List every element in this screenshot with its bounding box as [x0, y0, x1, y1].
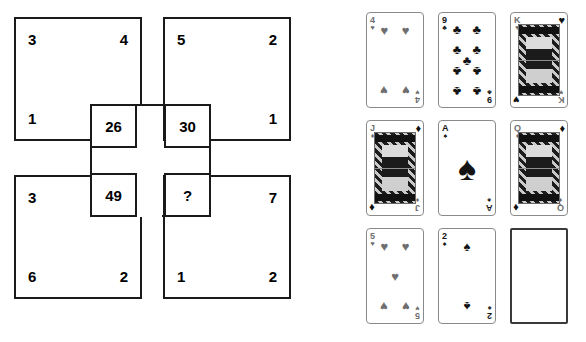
- square-tr-value-top-right: 2: [269, 32, 277, 47]
- card-pip-area: ♣♣♣♣♣♣♣♣♣: [448, 19, 486, 101]
- card-k-of-hearts[interactable]: K♥K♥♥♥: [510, 12, 568, 108]
- spades-suit-icon: ♠: [443, 240, 447, 247]
- spades-suit-icon: ♠: [464, 299, 471, 312]
- card-rank-label: K: [558, 96, 565, 104]
- center-mask-horizontal: [92, 148, 209, 171]
- court-band-bottom: [519, 86, 559, 93]
- hearts-suit-icon: ♥: [381, 24, 389, 37]
- court-band-top: [519, 27, 559, 34]
- center-cell-49-value: 49: [105, 188, 122, 203]
- card-index-bottom-right: A♠: [486, 197, 493, 212]
- hearts-suit-icon: ♥: [415, 89, 419, 96]
- card-q-of-diamonds[interactable]: Q♦Q♦♦♦: [510, 120, 568, 216]
- number-square-puzzle: 3 4 1 5 2 1 3 6 2 7 1 2 26 30 49 ?: [0, 0, 300, 342]
- square-bl-value-top-left: 3: [28, 190, 36, 205]
- clubs-suit-icon: ♣: [453, 42, 462, 55]
- clubs-suit-icon: ♣: [473, 42, 482, 55]
- card-5-of-hearts[interactable]: 5♥5♥♥♥♥♥♥: [366, 228, 424, 324]
- center-cell-30: 30: [164, 104, 211, 148]
- diamonds-suit-icon: ♦: [513, 202, 519, 213]
- hearts-suit-icon: ♥: [402, 24, 410, 37]
- card-index-top-left: 5♥: [370, 232, 375, 247]
- court-band-bottom: [519, 194, 559, 201]
- hearts-suit-icon: ♥: [402, 83, 410, 96]
- clubs-suit-icon: ♣: [453, 85, 462, 98]
- card-9-of-clubs[interactable]: 9♣9♣♣♣♣♣♣♣♣♣♣: [438, 12, 496, 108]
- court-card-artwork: [518, 132, 560, 204]
- center-cell-30-value: 30: [179, 119, 196, 134]
- square-bl-value-bottom-left: 6: [28, 269, 36, 284]
- court-card-artwork: [518, 24, 560, 96]
- square-tl-value-top-left: 3: [28, 32, 36, 47]
- center-cell-unknown-value: ?: [183, 188, 192, 203]
- hearts-suit-icon: ♥: [370, 24, 374, 31]
- clubs-suit-icon: ♣: [473, 65, 482, 78]
- card-pip-area: ♥♥♥♥: [376, 19, 414, 101]
- card-index-bottom-right: 2♠: [487, 305, 492, 320]
- diamonds-suit-icon: ♦: [416, 197, 420, 204]
- card-rank-label: 9: [487, 96, 492, 104]
- clubs-suit-icon: ♣: [442, 24, 447, 31]
- card-index-top-left: 4♥: [370, 16, 375, 31]
- card-rank-label: 9: [442, 16, 447, 24]
- card-a-of-spades[interactable]: A♠A♠♠: [438, 120, 496, 216]
- square-bl-value-bottom-right: 2: [120, 269, 128, 284]
- card-j-of-diamonds[interactable]: J♦J♦♦♦: [366, 120, 424, 216]
- card-rank-label: A: [486, 204, 493, 212]
- center-cell-26-value: 26: [105, 119, 122, 134]
- square-tl-value-bottom-left: 1: [28, 111, 36, 126]
- card-row: J♦J♦♦♦A♠A♠♠Q♦Q♦♦♦: [366, 120, 578, 216]
- spades-suit-icon: ♠: [488, 305, 492, 312]
- playing-card-grid: 4♥4♥♥♥♥♥9♣9♣♣♣♣♣♣♣♣♣♣K♥K♥♥♥J♦J♦♦♦A♠A♠♠Q♦…: [366, 12, 578, 330]
- card-rank-label: 4: [370, 16, 375, 24]
- center-cell-unknown: ?: [164, 173, 211, 217]
- square-br-value-bottom-right: 2: [269, 269, 277, 284]
- card-4-of-hearts[interactable]: 4♥4♥♥♥♥♥: [366, 12, 424, 108]
- hearts-suit-icon: ♥: [558, 15, 565, 26]
- clubs-suit-icon: ♣: [453, 65, 462, 78]
- center-cell-49: 49: [90, 173, 137, 217]
- card-index-top-left: 2♠: [442, 232, 447, 247]
- center-cell-26: 26: [90, 104, 137, 148]
- card-index-bottom-right: 4♥: [415, 89, 420, 104]
- clubs-suit-icon: ♣: [473, 22, 482, 35]
- card-rank-label: 5: [370, 232, 375, 240]
- card-pip-area: ♥♥♥♥♥: [376, 235, 414, 317]
- square-tl-value-top-right: 4: [120, 32, 128, 47]
- court-band-top: [375, 135, 415, 142]
- hearts-suit-icon: ♥: [402, 299, 410, 312]
- card-rank-label: 2: [487, 312, 492, 320]
- spades-suit-icon: ♠: [487, 197, 491, 204]
- card-blank-answer-slot[interactable]: [510, 228, 568, 324]
- hearts-suit-icon: ♥: [391, 270, 399, 283]
- hearts-suit-icon: ♥: [381, 240, 389, 253]
- diamonds-suit-icon: ♦: [415, 123, 421, 134]
- card-pip-area: ♠♠: [448, 235, 486, 317]
- spades-suit-icon: ♠: [464, 240, 471, 253]
- square-br-value-top-right: 7: [269, 190, 277, 205]
- square-br-value-bottom-left: 1: [177, 269, 185, 284]
- court-band-bottom: [375, 194, 415, 201]
- card-index-bottom-right: 9♣: [487, 89, 492, 104]
- hearts-suit-icon: ♥: [513, 94, 520, 105]
- diamonds-suit-icon: ♦: [559, 123, 565, 134]
- court-band-top: [519, 135, 559, 142]
- spades-suit-icon: ♠: [443, 132, 447, 139]
- spades-suit-icon: ♠: [458, 151, 476, 185]
- card-rank-label: 2: [442, 232, 447, 240]
- clubs-suit-icon: ♣: [463, 54, 472, 67]
- card-row: 5♥5♥♥♥♥♥♥2♠2♠♠♠: [366, 228, 578, 324]
- card-rank-label: 4: [415, 96, 420, 104]
- court-card-artwork: [374, 132, 416, 204]
- card-rank-label: J: [415, 204, 420, 212]
- hearts-suit-icon: ♥: [381, 299, 389, 312]
- hearts-suit-icon: ♥: [415, 305, 419, 312]
- clubs-suit-icon: ♣: [487, 89, 492, 96]
- square-tr-value-top-left: 5: [177, 32, 185, 47]
- card-pip-area: ♠: [448, 127, 486, 209]
- card-rank-label: Q: [557, 204, 564, 212]
- square-tr-value-bottom-right: 1: [269, 111, 277, 126]
- card-2-of-spades[interactable]: 2♠2♠♠♠: [438, 228, 496, 324]
- diamonds-suit-icon: ♦: [369, 202, 375, 213]
- clubs-suit-icon: ♣: [473, 85, 482, 98]
